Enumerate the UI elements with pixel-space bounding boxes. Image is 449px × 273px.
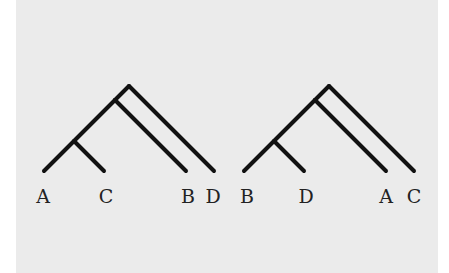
branch-inner-to-tip-a [44,100,115,171]
branch-inner-node-to-tip-b [115,100,186,171]
branch-inner-node-to-tip-a [315,100,386,171]
tip-label: B [181,185,195,207]
branch-node-to-tip-d [274,141,304,171]
tip-label: C [407,185,422,207]
branch-root-to-inner-node [115,86,129,100]
tip-label: B [240,185,254,207]
tree-1: A C B D [35,86,220,207]
tip-label: A [35,185,50,207]
branch-root-to-inner-node [315,86,329,100]
tip-label: D [205,185,220,207]
tip-label: A [378,185,393,207]
tree-2: B D A C [240,86,421,207]
branch-node-to-tip-c [74,141,104,171]
branch-inner-to-tip-b [244,100,315,171]
tip-label: D [298,185,313,207]
tip-label: C [99,185,114,207]
phylogenetic-trees-diagram: A C B D B D A C [0,0,449,273]
